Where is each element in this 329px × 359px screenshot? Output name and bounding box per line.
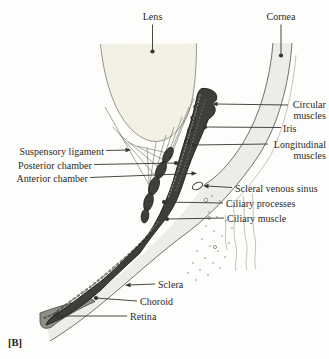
- iris-leader-dot: [203, 125, 207, 129]
- lens-label: Lens: [143, 11, 163, 22]
- choroid-leader-dot: [94, 296, 98, 300]
- circular-muscles-label: Circular muscles: [293, 99, 326, 121]
- ciliary-muscle-label: Ciliary muscle: [227, 213, 286, 224]
- anterior-chamber-leader-arrowhead: [191, 171, 197, 176]
- longitudinal-muscles-leader-dot: [192, 143, 196, 147]
- sclera-label: Sclera: [158, 279, 183, 290]
- scleral-venous-sinus-label: Scleral venous sinus: [235, 183, 318, 194]
- figure-tag: [B]: [8, 337, 22, 349]
- ciliary-processes-leader-dot: [162, 200, 166, 204]
- ciliary-processes-label: Ciliary processes: [226, 198, 295, 209]
- sclera-leader-line: [129, 284, 155, 285]
- posterior-chamber-leader-dot: [174, 161, 178, 165]
- lens-body: [101, 44, 197, 142]
- cornea-leader-dot: [279, 53, 283, 57]
- iris-leader-line: [205, 127, 281, 128]
- ciliary-muscle-leader-line: [167, 218, 224, 219]
- eye-anatomy-diagram: LensCorneaCircular musclesIrisLongitudin…: [0, 0, 329, 359]
- anterior-chamber-label: Anterior chamber: [16, 173, 88, 184]
- posterior-chamber-label: Posterior chamber: [18, 160, 92, 171]
- iris-label: Iris: [283, 123, 297, 134]
- retina-label: Retina: [130, 311, 156, 322]
- choroid-label: Choroid: [140, 296, 173, 307]
- suspensory-ligament-leader-line: [106, 150, 127, 151]
- suspensory-ligament-label: Suspensory ligament: [19, 146, 104, 157]
- longitudinal-muscles-label: Longitudinal muscles: [274, 139, 326, 161]
- cornea-label: Cornea: [266, 11, 295, 22]
- ciliary-muscle-leader-dot: [165, 217, 169, 221]
- lens-leader-dot: [150, 49, 154, 53]
